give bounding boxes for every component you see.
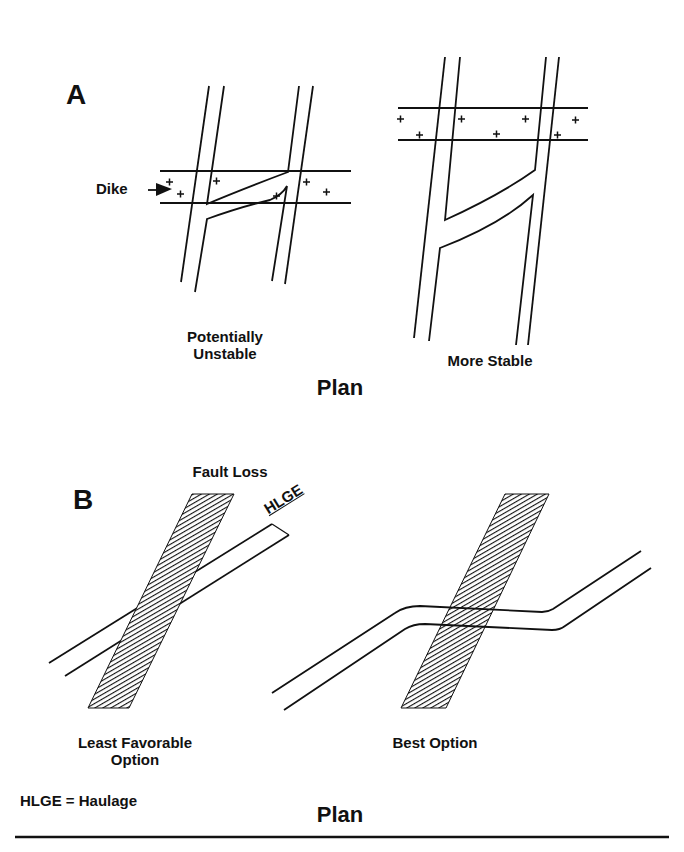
panel-b-right-drawing — [272, 494, 651, 710]
panel-a-letter: A — [66, 79, 86, 111]
dike-label: Dike — [96, 180, 128, 197]
panel-b-left-drawing — [49, 494, 289, 708]
dike-arrow-icon — [148, 183, 172, 196]
potentially-unstable-caption: Potentially Unstable — [160, 328, 290, 363]
panel-a-right-drawing — [398, 57, 588, 345]
best-option-caption: Best Option — [360, 734, 510, 751]
diagram-canvas — [0, 0, 684, 852]
panel-a-left-drawing — [160, 86, 351, 292]
panel-a-plan-label: Plan — [280, 375, 400, 400]
haulage-legend: HLGE = Haulage — [20, 792, 137, 809]
panel-b-letter: B — [73, 484, 93, 516]
more-stable-caption: More Stable — [420, 352, 560, 369]
panel-b-plan-label: Plan — [280, 802, 400, 827]
dike-plus-symbols — [166, 116, 579, 200]
fault-loss-label: Fault Loss — [160, 463, 300, 480]
least-favorable-caption: Least Favorable Option — [50, 734, 220, 769]
